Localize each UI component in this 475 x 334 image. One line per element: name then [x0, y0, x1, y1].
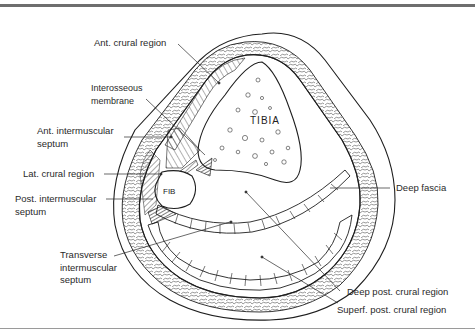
label-transverse-intermuscular-septum: Transverse intermuscular septum — [60, 249, 117, 287]
label-deep-post-crural-region: Deep post. crural region — [347, 286, 448, 299]
posterior-band-striations — [162, 233, 342, 286]
fibula-label: FIB — [163, 187, 175, 196]
transverse-band-striations — [175, 184, 338, 234]
label-superf-post-crural-region: Superf. post. crural region — [337, 304, 446, 317]
tibia-label: TIBIA — [250, 115, 280, 126]
label-interosseous-membrane: Interosseous membrane — [91, 82, 143, 107]
label-ant-intermuscular-septum: Ant. intermuscular septum — [37, 125, 114, 150]
label-lat-crural-region: Lat. crural region — [23, 168, 94, 181]
label-deep-fascia: Deep fascia — [396, 182, 446, 195]
label-post-intermuscular-septum: Post. intermuscular septum — [15, 193, 96, 218]
label-ant-crural-region: Ant. crural region — [94, 37, 166, 50]
